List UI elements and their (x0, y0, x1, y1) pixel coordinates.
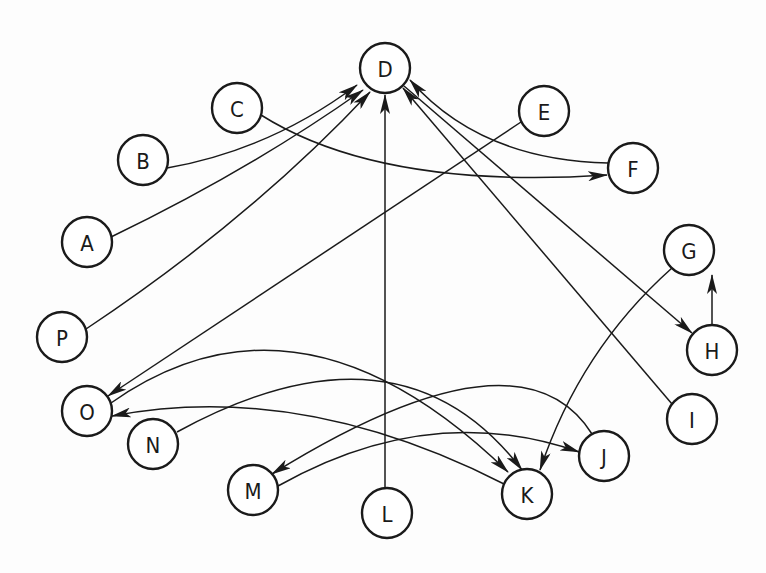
directed-graph-diagram: DCBAPONMLKJIHGFE (0, 0, 766, 573)
node-label: L (381, 502, 392, 527)
node-j: J (579, 431, 629, 481)
node-label: E (538, 100, 551, 125)
node-p: P (37, 312, 87, 362)
node-label: I (689, 408, 695, 433)
node-g: G (664, 225, 714, 275)
node-label: C (230, 97, 244, 122)
edge-f-to-d (410, 80, 608, 163)
node-c: C (212, 83, 262, 133)
node-label: B (136, 149, 150, 174)
edge-layer (86, 80, 712, 488)
node-label: G (681, 239, 696, 264)
edge-j-to-m (272, 386, 592, 474)
node-a: A (62, 217, 112, 267)
node-m: M (228, 465, 278, 515)
node-l: L (362, 488, 412, 538)
node-label: A (80, 231, 94, 256)
node-label: O (79, 400, 95, 425)
node-label: P (56, 326, 68, 351)
node-label: M (244, 479, 261, 504)
node-n: N (128, 419, 178, 469)
node-k: K (502, 469, 552, 519)
node-d: D (360, 43, 410, 93)
node-label: F (627, 157, 638, 182)
node-label: N (146, 433, 161, 458)
node-e: E (519, 86, 569, 136)
node-label: H (705, 339, 720, 364)
node-label: K (521, 483, 535, 508)
node-i: I (667, 394, 717, 444)
node-label: D (377, 57, 392, 82)
node-f: F (608, 143, 658, 193)
node-b: B (118, 135, 168, 185)
node-o: O (62, 386, 112, 436)
node-h: H (687, 325, 737, 375)
node-label: J (599, 445, 607, 470)
